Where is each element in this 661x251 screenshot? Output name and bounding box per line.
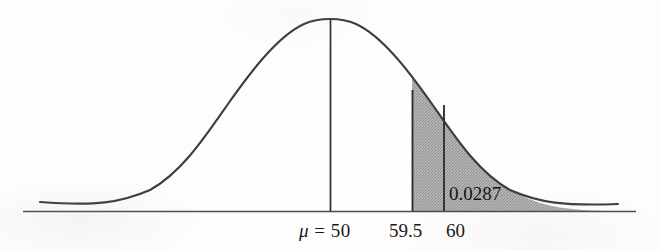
axis-label-upper-bound: 60 [446,221,465,240]
axis-label-mean: μ = 50 [299,221,351,240]
axis-label-lower-bound: 59.5 [389,221,422,240]
mu-value: 50 [331,220,351,241]
area-probability-label: 0.0287 [449,184,501,203]
mu-symbol: μ [299,220,309,241]
bell-curve [40,19,618,205]
distribution-plot [0,0,661,251]
normal-distribution-figure: μ = 50 59.5 60 0.0287 [0,0,661,251]
mu-equals-sign: = [309,220,331,241]
